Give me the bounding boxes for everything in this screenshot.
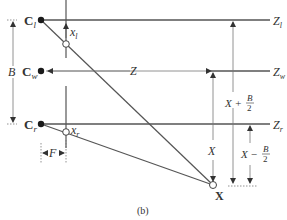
- camera-world-label: Cw: [22, 64, 37, 81]
- x-dimension-label: X: [207, 144, 216, 158]
- image-point-xl: [63, 41, 70, 48]
- depth-label: Z: [130, 64, 137, 78]
- camera-left-dot: [38, 17, 44, 23]
- zl-axis-label: Zl: [273, 14, 283, 30]
- image-point-xl-label: xl: [69, 25, 78, 41]
- focal-label: F: [48, 146, 57, 160]
- camera-right-dot: [38, 121, 44, 127]
- world-point-x: [210, 182, 217, 189]
- x-plus-label: X +: [224, 97, 242, 109]
- zw-axis-label: Zw: [273, 65, 286, 81]
- camera-left-label: Cl: [24, 13, 36, 30]
- image-point-xr-label: xr: [70, 123, 80, 139]
- stereo-geometry-diagram: Cl Cw Cr xl xr Zl Zw Zr B Z F X X + B 2 …: [0, 0, 287, 220]
- x-minus-num: B: [263, 144, 269, 154]
- caption: (b): [137, 205, 149, 217]
- zr-axis-label: Zr: [273, 118, 284, 134]
- x-plus-den: 2: [247, 103, 252, 113]
- image-point-xr: [63, 129, 70, 136]
- camera-right-label: Cr: [24, 117, 37, 134]
- baseline-label: B: [8, 65, 16, 79]
- x-minus-den: 2: [263, 154, 268, 164]
- world-point-label: X: [215, 189, 224, 203]
- camera-world-dot: [38, 68, 44, 74]
- x-plus-num: B: [247, 93, 253, 103]
- x-minus-label: X −: [240, 148, 258, 160]
